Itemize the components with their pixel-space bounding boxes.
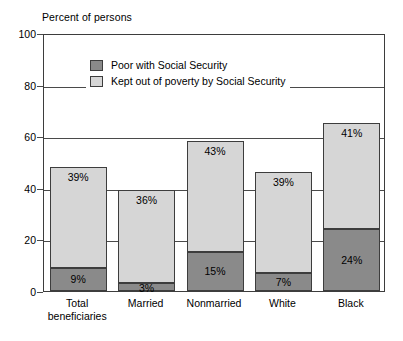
bar-segment-poor-with-social-security[interactable]: 9% <box>50 268 107 291</box>
stacked-bar-chart: Percent of persons 020406080100 39%9%36%… <box>0 0 403 341</box>
bar-nonmarried[interactable]: 43%15% <box>187 141 244 291</box>
bar-segment-kept-out-of-poverty[interactable]: 43% <box>187 141 244 252</box>
x-axis-label-line1: Black <box>338 297 364 309</box>
legend-item-poor-with-social-security: Poor with Social Security <box>90 57 286 73</box>
bar-segment-value-label: 41% <box>341 128 362 139</box>
x-axis-label-line1: Married <box>128 297 164 309</box>
x-axis-label-line1: White <box>269 297 296 309</box>
bar-segment-value-label: 39% <box>68 172 89 183</box>
x-axis-label-black: Black <box>301 297 401 310</box>
bar-segment-poor-with-social-security[interactable]: 7% <box>255 273 312 291</box>
bar-segment-value-label: 24% <box>341 255 362 266</box>
y-tick-label-0: 0 <box>0 287 36 298</box>
bar-black[interactable]: 41%24% <box>323 123 380 291</box>
bar-white[interactable]: 39%7% <box>255 172 312 291</box>
bar-segment-kept-out-of-poverty[interactable]: 39% <box>50 167 107 268</box>
bar-segment-value-label: 15% <box>204 266 225 277</box>
x-axis-label-line1: Total <box>66 297 88 309</box>
bar-segment-value-label: 43% <box>204 146 225 157</box>
bar-segment-value-label: 36% <box>136 195 157 206</box>
legend-label: Kept out of poverty by Social Security <box>111 76 286 87</box>
bar-segment-kept-out-of-poverty[interactable]: 36% <box>118 190 175 283</box>
bar-segment-value-label: 39% <box>273 177 294 188</box>
x-axis-label-line2: beneficiaries <box>27 310 127 323</box>
y-tick-label-80: 80 <box>0 81 36 92</box>
bar-segment-kept-out-of-poverty[interactable]: 39% <box>255 172 312 273</box>
y-tick-mark-0 <box>37 292 43 293</box>
legend-item-kept-out-of-poverty: Kept out of poverty by Social Security <box>90 73 286 89</box>
y-tick-label-60: 60 <box>0 132 36 143</box>
y-tick-label-40: 40 <box>0 184 36 195</box>
bar-segment-poor-with-social-security[interactable]: 24% <box>323 229 380 291</box>
bar-segment-kept-out-of-poverty[interactable]: 41% <box>323 123 380 229</box>
y-tick-label-100: 100 <box>0 29 36 40</box>
bar-married[interactable]: 36%3% <box>118 190 175 291</box>
bar-total-beneficiaries[interactable]: 39%9% <box>50 167 107 291</box>
legend-swatch-icon-dark <box>90 60 103 71</box>
y-axis-title: Percent of persons <box>42 11 132 23</box>
bar-segment-poor-with-social-security[interactable]: 15% <box>187 252 244 291</box>
bar-segment-value-label: 7% <box>276 277 291 288</box>
legend: Poor with Social Security Kept out of po… <box>86 55 290 92</box>
bar-segment-value-label: 3% <box>139 283 154 294</box>
bar-segment-poor-with-social-security[interactable]: 3% <box>118 283 175 291</box>
legend-label: Poor with Social Security <box>111 60 227 71</box>
y-tick-label-20: 20 <box>0 235 36 246</box>
legend-swatch-icon-light <box>90 76 103 87</box>
bar-segment-value-label: 9% <box>71 274 86 285</box>
